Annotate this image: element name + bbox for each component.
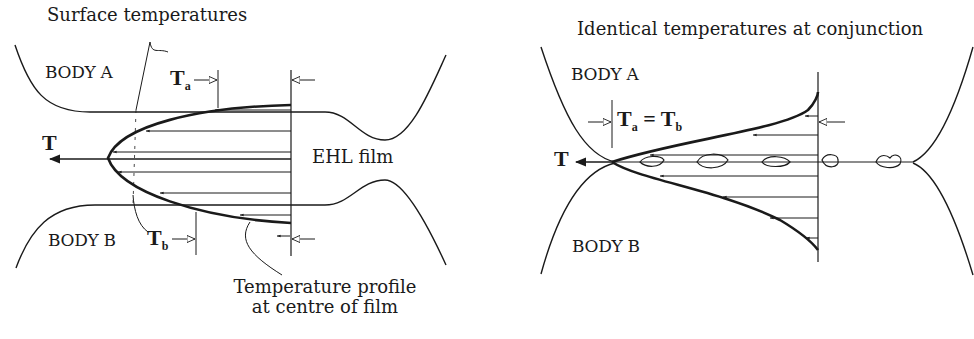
tb-symbol: T <box>147 225 162 250</box>
temperature-profile-line2: at centre of film <box>230 298 420 316</box>
t-axis-label: T <box>42 132 57 154</box>
temperature-profile-line1: Temperature profile <box>230 278 420 296</box>
body-a-label-right: BODY A <box>571 66 638 83</box>
surface-temp-leader-hook-a <box>150 42 168 52</box>
ta-subscript: a <box>185 79 191 93</box>
surface-temperatures-label: Surface temperatures <box>47 6 247 24</box>
diagram-canvas <box>0 0 974 339</box>
eq-sub2: b <box>676 120 683 134</box>
surface-temp-leader-hook-b <box>133 195 148 232</box>
t-axis-label-right: T <box>554 148 569 170</box>
surface-temp-leader-a <box>136 42 150 110</box>
body-a-surface-right-2 <box>913 47 973 162</box>
ta-equals-tb-label: Ta = Tb <box>617 108 682 133</box>
tb-subscript: b <box>162 239 169 253</box>
surface-temp-leader-b <box>133 110 136 205</box>
profile-leader <box>245 222 282 275</box>
profile-hatch-lines <box>113 110 291 215</box>
temperature-profile-label: Temperature profile at centre of film <box>230 278 420 316</box>
ehl-film-label: EHL film <box>312 148 393 166</box>
identical-temperatures-title: Identical temperatures at conjunction <box>577 20 923 38</box>
body-b-surface-right <box>541 163 615 274</box>
eq-equals: = <box>638 106 661 131</box>
body-a-label: BODY A <box>45 64 112 81</box>
body-a-surface <box>15 45 446 140</box>
temperature-profile-curve-right-lower <box>612 162 818 250</box>
asperities <box>640 154 901 168</box>
body-b-label-right: BODY B <box>572 238 640 255</box>
body-b-surface-right-2 <box>913 163 973 275</box>
ta-symbol: T <box>170 65 185 90</box>
tb-label: Tb <box>147 227 168 252</box>
body-b-label: BODY B <box>48 232 116 249</box>
ta-label: Ta <box>170 67 191 92</box>
eq-t1: T <box>617 106 632 131</box>
eq-t2: T <box>661 106 676 131</box>
